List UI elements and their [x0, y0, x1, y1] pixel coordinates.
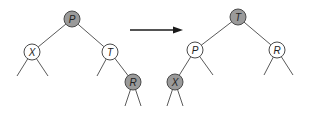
- node-label: T: [107, 47, 114, 58]
- before-node-t: T: [102, 44, 118, 60]
- before-node-p: P: [64, 11, 80, 27]
- arrow-head-icon: [173, 27, 183, 34]
- tree-rotation-diagram: PXTR TPRX: [0, 0, 310, 113]
- before-node-r: R: [125, 74, 141, 90]
- after-node-t: T: [230, 9, 246, 25]
- after-tree-edges: [167, 17, 293, 106]
- node-label: X: [28, 47, 36, 58]
- before-tree-nodes: PXTR: [24, 11, 141, 90]
- after-tree-nodes: TPRX: [167, 9, 285, 90]
- node-label: P: [192, 45, 199, 56]
- node-label: R: [273, 45, 280, 56]
- before-tree-edges: [17, 19, 141, 106]
- node-label: T: [235, 12, 242, 23]
- node-label: X: [171, 77, 179, 88]
- node-label: P: [69, 14, 76, 25]
- after-node-p: P: [187, 42, 203, 58]
- after-node-x: X: [167, 74, 183, 90]
- node-label: R: [129, 77, 136, 88]
- after-node-r: R: [269, 42, 285, 58]
- before-node-x: X: [24, 44, 40, 60]
- rotation-arrow: [130, 27, 183, 34]
